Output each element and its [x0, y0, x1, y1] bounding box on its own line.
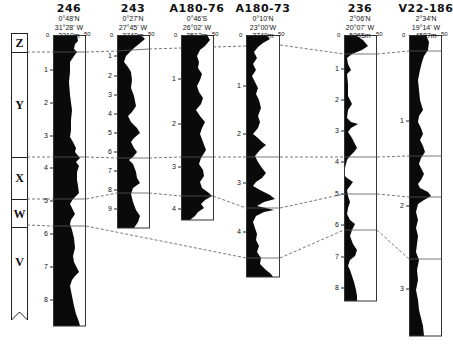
core-id: A180-76 [162, 3, 232, 14]
boundary-y-x [27, 156, 442, 158]
zone-label-y: Y [11, 95, 28, 115]
scale-min-a180-73: 0 [239, 32, 242, 38]
core-243-column [114, 35, 150, 228]
core-lon: 23°00'W [228, 24, 298, 32]
depth-tick-246: 5 [38, 197, 48, 204]
zone-boundaries [27, 45, 442, 259]
depth-tick-243: 7 [102, 167, 112, 174]
depth-tick-a180-73: 2 [231, 130, 241, 137]
depth-tick-236: 1 [329, 65, 339, 72]
core-246-column [50, 35, 86, 326]
depth-tick-236: 2 [329, 96, 339, 103]
core-a180-73-column [243, 35, 280, 277]
scale-max-a180-73: 50 [278, 31, 285, 37]
scale-min-246: 0 [46, 32, 49, 38]
core-id: 246 [34, 3, 104, 14]
depth-tick-236: 6 [329, 221, 339, 228]
correlation-graphics [0, 0, 453, 344]
depth-tick-243: 2 [102, 72, 112, 79]
core-lat: 0°46'S [162, 15, 232, 23]
depth-tick-243: 8 [102, 186, 112, 193]
depth-tick-236: 5 [329, 190, 339, 197]
core-depth: 3740m [98, 32, 168, 40]
depth-tick-a180-73: 1 [231, 82, 241, 89]
depth-tick-243: 5 [102, 129, 112, 136]
scale-max-243: 50 [148, 31, 155, 37]
core-depth: 3210m [34, 32, 104, 40]
depth-tick-a180-73: 4 [231, 228, 241, 235]
depth-tick-a180-76: 1 [166, 75, 176, 82]
core-id: V22-186 [391, 3, 453, 14]
depth-tick-a180-73: 3 [231, 179, 241, 186]
core-v22-186-column [406, 35, 442, 336]
depth-tick-a180-76: 4 [166, 205, 176, 212]
scale-max-246: 50 [84, 31, 91, 37]
scale-max-a180-76: 50 [212, 31, 219, 37]
zone-label-w: W [11, 204, 28, 224]
core-depth: 5065m [325, 32, 395, 40]
zone-label-x: X [11, 168, 28, 188]
scale-min-236: 0 [337, 32, 340, 38]
depth-tick-246: 7 [38, 263, 48, 270]
scale-min-a180-76: 0 [174, 32, 177, 38]
core-header-246: 246 0°48'N 31°28' W 3210m [34, 3, 104, 40]
core-header-243: 243 0°27'N 27°45' W 3740m [98, 3, 168, 40]
depth-tick-v22-186: 2 [394, 202, 404, 209]
zone-label-z: Z [11, 33, 28, 53]
depth-tick-246: 4 [38, 164, 48, 171]
depth-tick-v22-186: 1 [394, 117, 404, 124]
core-depth: 3512m [162, 32, 232, 40]
depth-tick-246: 3 [38, 132, 48, 139]
scale-min-v22-186: 0 [402, 32, 405, 38]
core-lon: 19°14' W [391, 24, 453, 32]
depth-tick-243: 9 [102, 205, 112, 212]
core-lon: 20°07' W [325, 24, 395, 32]
core-id: 243 [98, 3, 168, 14]
boundary-x-w [27, 193, 442, 208]
core-lat: 0°48'N [34, 15, 104, 23]
depth-tick-243: 4 [102, 110, 112, 117]
depth-tick-a180-76: 2 [166, 120, 176, 127]
core-a180-76-column [178, 35, 214, 220]
depth-tick-v22-186: 3 [394, 285, 404, 292]
core-lon: 26°02' W [162, 24, 232, 32]
core-lat: 0°10'N [228, 15, 298, 23]
depth-tick-243: 1 [102, 52, 112, 59]
core-header-236: 236 2°06'N 20°07' W 5065m [325, 3, 395, 40]
core-header-a180-76: A180-76 0°46'S 26°02' W 3512m [162, 3, 232, 40]
scale-min-243: 0 [110, 32, 113, 38]
core-lat: 0°27'N [98, 15, 168, 23]
scale-max-236: 50 [376, 31, 383, 37]
depth-tick-236: 4 [329, 158, 339, 165]
boundary-z-y [27, 45, 442, 54]
scale-max-v22-186: 50 [441, 31, 448, 37]
core-id: A180-73 [228, 3, 298, 14]
depth-tick-246: 8 [38, 296, 48, 303]
depth-tick-243: 6 [102, 148, 112, 155]
depth-tick-246: 6 [38, 230, 48, 237]
core-id: 236 [325, 3, 395, 14]
depth-tick-236: 8 [329, 284, 339, 291]
core-lon: 31°28' W [34, 24, 104, 32]
zone-label-v: V [11, 252, 28, 272]
depth-tick-a180-76: 3 [166, 163, 176, 170]
depth-tick-246: 2 [38, 99, 48, 106]
depth-tick-236: 3 [329, 127, 339, 134]
depth-tick-243: 3 [102, 91, 112, 98]
core-lat: 2°34'N [391, 15, 453, 23]
depth-tick-246: 1 [38, 66, 48, 73]
core-lat: 2°06'N [325, 15, 395, 23]
core-236-column [341, 35, 377, 301]
depth-tick-236: 7 [329, 253, 339, 260]
core-lon: 27°45' W [98, 24, 168, 32]
